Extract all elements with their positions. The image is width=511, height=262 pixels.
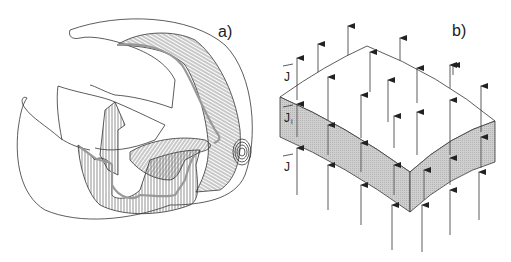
label-j-below: J <box>284 160 290 174</box>
label-j-above: J <box>284 70 290 84</box>
label-ji: J <box>284 111 290 125</box>
current-label-below: J <box>283 154 293 174</box>
current-label-above: J <box>283 64 293 84</box>
panel-b-label: b) <box>452 22 466 39</box>
figure-canvas: a) <box>0 0 511 262</box>
panel-a: a) <box>17 19 252 219</box>
slab <box>280 46 495 212</box>
left-flap <box>22 97 90 150</box>
panel-b: J J i J b) <box>280 22 495 252</box>
panel-a-label: a) <box>218 23 232 40</box>
